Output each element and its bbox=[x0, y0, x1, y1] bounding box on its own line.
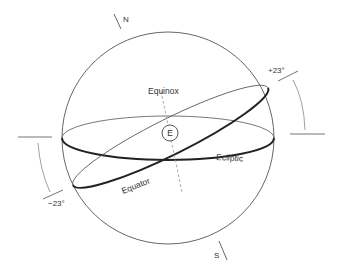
south-pole-tick bbox=[219, 241, 227, 260]
equator-front-arc bbox=[73, 88, 276, 201]
ecliptic-label: Ecliptic bbox=[216, 152, 244, 163]
north-pole-tick bbox=[114, 14, 121, 29]
minus-23-label: −23° bbox=[48, 199, 65, 208]
equinox-axis-dashed bbox=[161, 91, 182, 192]
plus-23-label: +23° bbox=[268, 66, 285, 75]
right-angle-arc bbox=[293, 80, 305, 130]
equator-label: Equator bbox=[120, 175, 152, 195]
south-label: S bbox=[214, 251, 219, 260]
celestial-sphere-diagram: E Equinox Ecliptic Equator N S −23° +23° bbox=[0, 0, 344, 276]
earth-label: E bbox=[167, 128, 173, 138]
equinox-label: Equinox bbox=[148, 86, 179, 96]
left-angle-arc bbox=[38, 143, 50, 192]
left-equator-tick bbox=[43, 190, 63, 199]
north-label: N bbox=[123, 15, 129, 24]
